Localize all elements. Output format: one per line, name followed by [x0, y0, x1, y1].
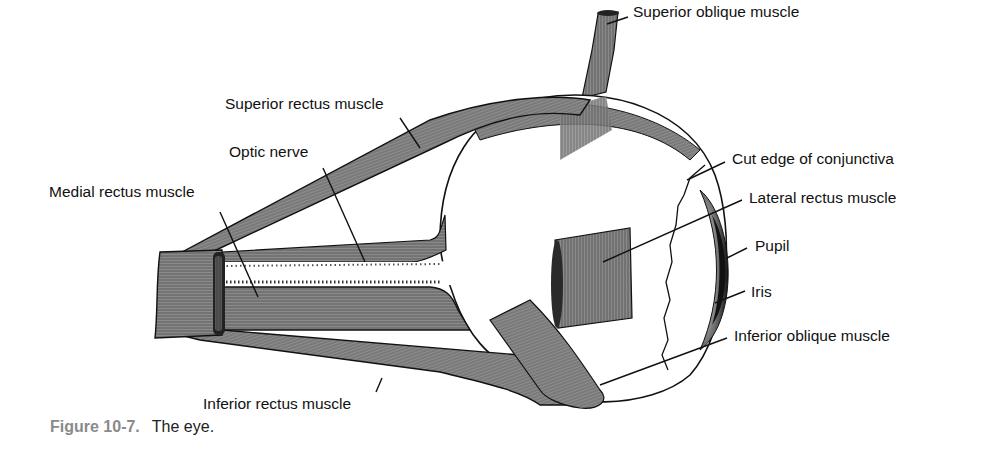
label-inferior-rectus-muscle: Inferior rectus muscle — [203, 395, 351, 413]
figure-number: Figure 10-7. — [50, 418, 140, 435]
figure-caption: Figure 10-7.The eye. — [50, 418, 214, 436]
figure: Superior oblique muscle Superior rectus … — [0, 0, 989, 453]
figure-caption-text: The eye. — [152, 418, 214, 435]
label-optic-nerve: Optic nerve — [229, 143, 308, 161]
label-lateral-rectus-muscle: Lateral rectus muscle — [749, 189, 896, 207]
label-superior-oblique-muscle: Superior oblique muscle — [633, 3, 799, 21]
superior-oblique-muscle-shape — [582, 10, 619, 98]
label-medial-rectus-muscle: Medial rectus muscle — [49, 183, 195, 201]
label-pupil: Pupil — [755, 237, 789, 255]
lateral-rectus-muscle-shape — [551, 228, 632, 328]
label-inferior-oblique-muscle: Inferior oblique muscle — [734, 327, 890, 345]
label-cut-edge-of-conjunctiva: Cut edge of conjunctiva — [732, 150, 894, 168]
label-superior-rectus-muscle: Superior rectus muscle — [225, 95, 384, 113]
tendinous-ring-shape — [155, 250, 225, 338]
medial-rectus-muscle-shape — [222, 287, 470, 330]
eye-anatomy-illustration — [0, 0, 989, 453]
label-iris: Iris — [751, 283, 772, 301]
